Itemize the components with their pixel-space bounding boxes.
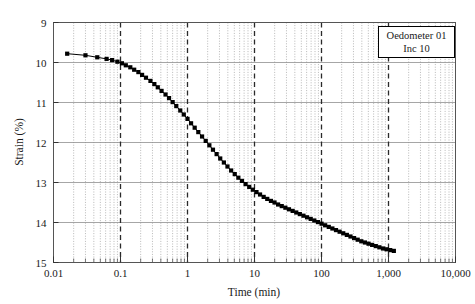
data-point-marker xyxy=(65,52,69,56)
data-point-marker xyxy=(327,225,331,229)
data-point-marker xyxy=(243,182,247,186)
data-point-marker xyxy=(196,130,200,134)
data-point-marker xyxy=(156,85,160,89)
data-point-marker xyxy=(132,68,136,72)
data-point-marker xyxy=(236,176,240,180)
data-point-marker xyxy=(294,210,298,214)
data-point-marker xyxy=(377,245,381,249)
data-point-marker xyxy=(120,61,124,65)
data-point-marker xyxy=(254,190,258,194)
data-point-marker xyxy=(345,233,349,237)
data-point-marker xyxy=(204,139,208,143)
y-axis-title: Strain (%) xyxy=(13,118,26,166)
data-point-marker xyxy=(258,192,262,196)
y-tick-label: 13 xyxy=(36,177,48,189)
data-point-marker xyxy=(136,70,140,74)
y-tick-label: 12 xyxy=(36,137,47,149)
data-point-marker xyxy=(174,104,178,108)
data-point-marker xyxy=(381,246,385,250)
data-point-marker xyxy=(366,242,370,246)
data-point-marker xyxy=(148,79,152,83)
data-point-marker xyxy=(388,248,392,252)
data-point-marker xyxy=(163,92,167,96)
data-point-marker xyxy=(251,188,255,192)
y-tick-label: 11 xyxy=(36,97,47,109)
data-point-marker xyxy=(316,220,320,224)
data-point-marker xyxy=(265,197,269,201)
data-point-marker xyxy=(171,100,175,104)
data-point-marker xyxy=(283,206,287,210)
data-point-marker xyxy=(272,200,276,204)
data-point-marker xyxy=(301,214,305,218)
y-tick-label: 9 xyxy=(41,17,47,29)
data-point-marker xyxy=(374,244,378,248)
x-axis-tick-labels: 0.010.11101001,00010,000 xyxy=(44,267,471,279)
data-point-marker xyxy=(128,65,132,69)
y-tick-label: 10 xyxy=(36,57,48,69)
data-point-marker xyxy=(218,156,222,160)
data-point-marker xyxy=(110,58,114,62)
data-point-marker xyxy=(291,209,295,213)
data-point-marker xyxy=(359,239,363,243)
data-point-marker xyxy=(352,236,356,240)
data-point-marker xyxy=(115,60,119,64)
data-point-marker xyxy=(83,53,87,57)
data-point-marker xyxy=(309,217,313,221)
data-point-marker xyxy=(200,134,204,138)
data-point-marker xyxy=(323,223,327,227)
data-point-marker xyxy=(262,195,266,199)
data-point-marker xyxy=(370,243,374,247)
data-point-marker xyxy=(385,247,389,251)
data-point-marker xyxy=(185,117,189,121)
data-point-marker xyxy=(330,226,334,230)
data-point-marker xyxy=(312,218,316,222)
data-point-marker xyxy=(240,179,244,183)
data-point-marker xyxy=(305,215,309,219)
data-point-marker xyxy=(159,89,163,93)
y-tick-label: 14 xyxy=(36,217,48,229)
x-tick-label: 0.01 xyxy=(44,267,63,279)
data-point-marker xyxy=(182,112,186,116)
data-point-marker xyxy=(276,202,280,206)
data-point-marker xyxy=(222,160,226,164)
y-tick-label: 15 xyxy=(36,257,48,269)
data-point-marker xyxy=(233,172,237,176)
data-point-marker xyxy=(211,148,215,152)
data-point-marker xyxy=(363,240,367,244)
data-point-marker xyxy=(280,204,284,208)
data-point-marker xyxy=(189,121,193,125)
data-point-marker xyxy=(215,152,219,156)
data-point-marker xyxy=(95,55,99,59)
data-point-marker xyxy=(104,57,108,61)
x-tick-label: 1,000 xyxy=(376,267,401,279)
data-point-marker xyxy=(298,212,302,216)
data-point-marker xyxy=(225,164,229,168)
data-point-marker xyxy=(392,249,396,253)
data-point-marker xyxy=(229,168,233,172)
data-point-marker xyxy=(247,185,251,189)
y-axis-ticks xyxy=(54,23,59,263)
x-tick-label: 1 xyxy=(185,267,191,279)
chart-plot-area: 0.010.11101001,00010,000 9101112131415 T… xyxy=(0,0,475,304)
data-point-marker xyxy=(207,143,211,147)
x-tick-label: 10,000 xyxy=(440,267,471,279)
x-tick-label: 100 xyxy=(313,267,330,279)
legend-box: Oedometer 01 Inc 10 xyxy=(379,27,455,58)
data-line xyxy=(67,54,394,251)
y-axis-tick-labels: 9101112131415 xyxy=(36,17,48,269)
data-point-marker xyxy=(287,207,291,211)
data-point-marker xyxy=(144,76,148,80)
x-tick-label: 10 xyxy=(249,267,261,279)
data-point-marker xyxy=(140,73,144,77)
data-point-marker xyxy=(348,234,352,238)
data-point-marker xyxy=(319,222,323,226)
x-tick-label: 0.1 xyxy=(114,267,128,279)
data-point-marker xyxy=(356,238,360,242)
legend-line-1: Oedometer 01 xyxy=(387,30,447,41)
data-point-marker xyxy=(124,63,128,67)
data-point-marker xyxy=(341,231,345,235)
data-point-marker xyxy=(178,108,182,112)
legend-line-2: Inc 10 xyxy=(403,43,430,54)
data-point-marker xyxy=(167,96,171,100)
x-axis-title: Time (min) xyxy=(228,286,280,299)
